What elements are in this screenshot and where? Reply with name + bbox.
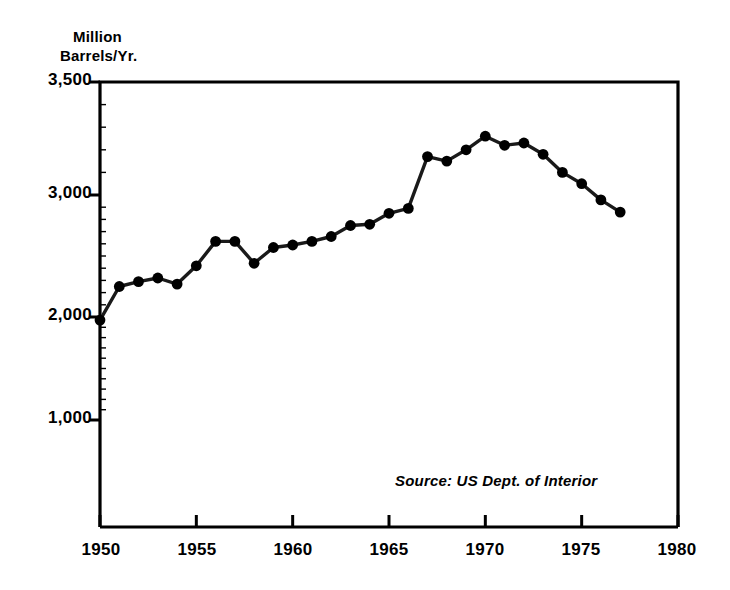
data-point	[519, 138, 530, 149]
plot-area	[0, 0, 730, 590]
data-point	[615, 207, 626, 218]
data-point	[557, 167, 568, 178]
data-point	[538, 149, 549, 160]
data-point	[461, 144, 472, 155]
data-point	[384, 208, 395, 219]
data-series-line	[100, 136, 620, 320]
data-point	[480, 131, 491, 142]
x-axis-ticks	[100, 515, 678, 527]
data-point	[441, 156, 452, 167]
data-point	[596, 195, 607, 206]
y-axis-ticks	[89, 82, 100, 420]
data-point	[326, 231, 337, 242]
data-point	[114, 281, 125, 292]
data-point	[364, 219, 375, 230]
data-point	[345, 220, 356, 231]
data-point	[152, 273, 163, 284]
data-point	[230, 236, 241, 247]
data-point	[95, 315, 106, 326]
data-point	[499, 140, 510, 151]
chart-container: Million Barrels/Yr. 3,500 3,000 2,000 1,…	[0, 0, 730, 590]
data-point	[172, 279, 183, 290]
data-point	[191, 260, 202, 271]
data-point	[422, 151, 433, 162]
data-point	[133, 276, 144, 287]
data-point-markers	[95, 131, 626, 326]
frame-polyline	[100, 82, 678, 527]
data-point	[210, 236, 221, 247]
data-point	[403, 203, 414, 214]
data-point	[576, 178, 587, 189]
data-point	[268, 242, 279, 253]
data-point	[287, 240, 298, 251]
data-point	[307, 236, 318, 247]
data-point	[249, 258, 260, 269]
axis-frame	[100, 82, 678, 527]
